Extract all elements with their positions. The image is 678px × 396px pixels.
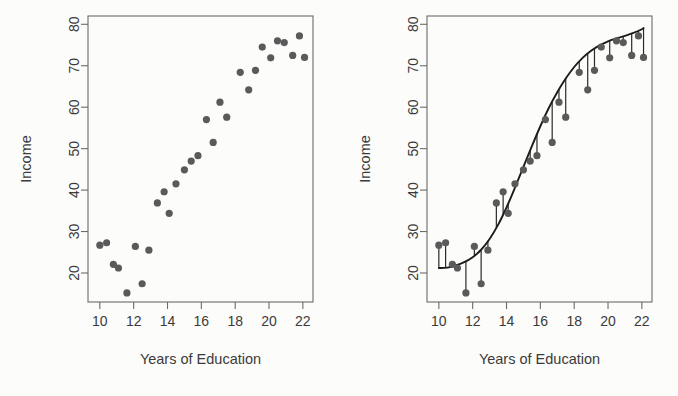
x-axis-title: Years of Education xyxy=(479,351,600,367)
data-point xyxy=(181,166,188,173)
data-point xyxy=(500,188,507,195)
x-tick-label: 12 xyxy=(465,313,481,329)
y-tick-label: 40 xyxy=(66,182,82,198)
figure-container: 1012141618202220304050607080Years of Edu… xyxy=(0,0,678,396)
data-point xyxy=(210,139,217,146)
y-tick-label: 30 xyxy=(405,224,421,240)
data-points xyxy=(96,32,308,296)
x-tick-label: 14 xyxy=(499,313,515,329)
x-tick-label: 14 xyxy=(160,313,176,329)
data-point xyxy=(533,152,540,159)
data-point xyxy=(194,152,201,159)
data-point xyxy=(245,86,252,93)
data-point xyxy=(493,199,500,206)
x-tick-label: 16 xyxy=(194,313,210,329)
data-point xyxy=(576,69,583,76)
data-point xyxy=(123,289,130,296)
data-point xyxy=(259,43,266,50)
data-point xyxy=(478,280,485,287)
y-tick-label: 60 xyxy=(66,99,82,115)
y-tick-label: 30 xyxy=(66,224,82,240)
data-point xyxy=(216,99,223,106)
data-point xyxy=(549,139,556,146)
y-axis-title: Income xyxy=(357,135,373,183)
panel-left-scatterplot: 1012141618202220304050607080Years of Edu… xyxy=(0,0,339,396)
data-point xyxy=(132,243,139,250)
data-point xyxy=(161,188,168,195)
data-point xyxy=(96,242,103,249)
x-tick-label: 16 xyxy=(533,313,549,329)
data-point xyxy=(154,199,161,206)
plot-frame xyxy=(88,16,313,302)
data-point xyxy=(640,54,647,61)
y-tick-label: 80 xyxy=(405,16,421,32)
data-point xyxy=(628,52,635,59)
data-point xyxy=(584,86,591,93)
data-point xyxy=(166,210,173,217)
residual-segments xyxy=(439,28,644,293)
y-axis-title: Income xyxy=(18,135,34,183)
data-point xyxy=(635,32,642,39)
y-tick-label: 70 xyxy=(405,58,421,74)
data-point xyxy=(562,114,569,121)
x-tick-label: 22 xyxy=(634,313,650,329)
data-point xyxy=(281,39,288,46)
left-plot-svg: 1012141618202220304050607080Years of Edu… xyxy=(0,0,339,396)
data-point xyxy=(267,54,274,61)
y-tick-label: 70 xyxy=(66,58,82,74)
data-point xyxy=(103,239,110,246)
data-point xyxy=(620,39,627,46)
data-point xyxy=(591,67,598,74)
y-tick-label: 60 xyxy=(405,99,421,115)
x-tick-label: 22 xyxy=(295,313,311,329)
x-tick-label: 18 xyxy=(227,313,243,329)
left-plot-content: 1012141618202220304050607080Years of Edu… xyxy=(18,16,313,367)
right-plot-svg: 1012141618202220304050607080Years of Edu… xyxy=(339,0,678,396)
data-point xyxy=(252,67,259,74)
data-point xyxy=(203,116,210,123)
data-point xyxy=(527,157,534,164)
data-point xyxy=(145,247,152,254)
data-point xyxy=(555,99,562,106)
data-point xyxy=(598,43,605,50)
x-tick-label: 10 xyxy=(431,313,447,329)
data-point xyxy=(511,180,518,187)
data-point xyxy=(542,116,549,123)
data-point xyxy=(613,37,620,44)
data-point xyxy=(296,32,303,39)
data-point xyxy=(471,243,478,250)
y-tick-label: 20 xyxy=(66,265,82,281)
x-tick-label: 18 xyxy=(566,313,582,329)
data-point xyxy=(435,242,442,249)
data-point xyxy=(237,69,244,76)
x-tick-label: 20 xyxy=(600,313,616,329)
data-point xyxy=(301,54,308,61)
data-point xyxy=(188,157,195,164)
y-tick-label: 20 xyxy=(405,265,421,281)
data-point xyxy=(606,54,613,61)
data-points xyxy=(435,32,647,296)
panel-right-scatterplot-with-fit: 1012141618202220304050607080Years of Edu… xyxy=(339,0,678,396)
data-point xyxy=(139,280,146,287)
y-tick-label: 40 xyxy=(405,182,421,198)
y-tick-label: 80 xyxy=(66,16,82,32)
y-tick-label: 50 xyxy=(66,141,82,157)
data-point xyxy=(484,247,491,254)
data-point xyxy=(115,264,122,271)
data-point xyxy=(454,264,461,271)
data-point xyxy=(172,180,179,187)
data-point xyxy=(520,166,527,173)
data-point xyxy=(223,114,230,121)
data-point xyxy=(274,37,281,44)
y-tick-label: 50 xyxy=(405,141,421,157)
plot-frame xyxy=(427,16,652,302)
data-point xyxy=(505,210,512,217)
x-tick-label: 12 xyxy=(126,313,142,329)
right-plot-content: 1012141618202220304050607080Years of Edu… xyxy=(357,16,652,367)
fit-curve xyxy=(439,28,644,268)
x-axis-title: Years of Education xyxy=(140,351,261,367)
data-point xyxy=(442,239,449,246)
data-point xyxy=(289,52,296,59)
x-tick-label: 20 xyxy=(261,313,277,329)
data-point xyxy=(462,289,469,296)
